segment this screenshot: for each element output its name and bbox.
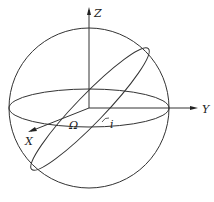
orbital-plane (22, 39, 159, 179)
inclination-label: i (110, 118, 114, 131)
y-axis-label: Y (202, 103, 211, 116)
node-angle-label: Ω (68, 119, 78, 132)
x-axis-label: X (24, 135, 34, 148)
z-axis-label: Z (93, 7, 102, 20)
z-axis-arrow-icon (87, 7, 91, 15)
y-axis-arrow-icon (190, 106, 198, 110)
celestial-sphere-diagram: Z Y X Ω i (0, 0, 214, 202)
x-axis-arrow-icon (28, 127, 37, 132)
x-axis (31, 108, 89, 131)
inclination-arc (102, 118, 109, 122)
